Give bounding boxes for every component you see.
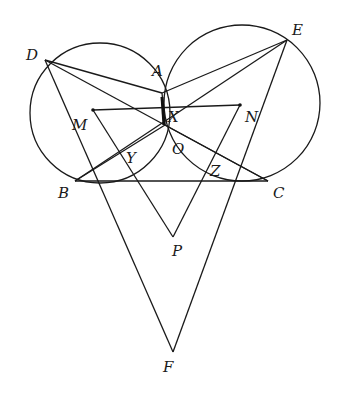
segment-ef xyxy=(173,40,287,352)
segment-np xyxy=(173,105,240,237)
right-circle xyxy=(164,25,320,181)
geometry-figure: DEAXOMNYZBCPF xyxy=(0,0,338,397)
label-e: E xyxy=(291,21,303,39)
label-c: C xyxy=(273,184,285,202)
point-m-dot xyxy=(91,108,95,112)
common-chord-ax xyxy=(162,97,164,125)
label-f: F xyxy=(162,358,174,376)
segment-bx xyxy=(75,125,165,181)
diagram-canvas: DEAXOMNYZBCPF xyxy=(0,0,338,397)
point-n-dot xyxy=(238,103,242,107)
label-o: O xyxy=(172,140,184,158)
label-z: Z xyxy=(209,162,221,180)
segment-ae xyxy=(162,40,287,93)
label-b: B xyxy=(57,184,69,202)
label-a: A xyxy=(150,62,163,80)
label-p: P xyxy=(171,242,183,260)
label-n: N xyxy=(244,108,259,126)
label-d: D xyxy=(25,46,38,64)
segment-mn xyxy=(93,105,240,110)
label-m: M xyxy=(71,116,88,134)
label-x: X xyxy=(167,108,180,126)
segment-da xyxy=(45,60,162,93)
point-labels: DEAXOMNYZBCPF xyxy=(25,21,303,376)
segment-mp xyxy=(93,110,173,237)
segment-ax-bold xyxy=(162,97,164,125)
left-circle xyxy=(30,43,170,183)
label-y: Y xyxy=(126,149,138,167)
circles xyxy=(30,25,320,183)
